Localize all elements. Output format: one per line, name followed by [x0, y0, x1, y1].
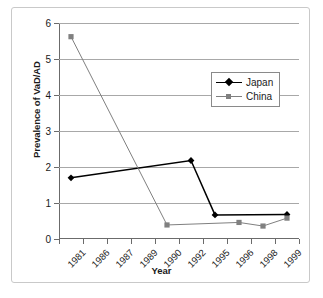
y-tick-label: 0: [45, 234, 51, 245]
legend-label: China: [246, 91, 272, 102]
x-tick-mark: [299, 239, 300, 244]
x-tick-mark: [227, 239, 228, 244]
legend-swatch-icon: [216, 76, 242, 88]
data-point-marker: [68, 34, 73, 39]
y-axis-title: Prevalence of VaD/AD: [31, 40, 42, 180]
chart-figure: Prevalence of VaD/AD Year 0123456 198119…: [11, 7, 310, 283]
x-tick-mark: [275, 239, 276, 244]
plot-area: 0123456 19811986198719891990199219951996…: [59, 23, 299, 239]
x-tick-mark: [83, 239, 84, 244]
y-tick-label: 3: [45, 126, 51, 137]
data-point-marker: [236, 220, 241, 225]
legend-label: Japan: [246, 77, 273, 88]
y-tick-label: 4: [45, 90, 51, 101]
data-point-marker: [68, 174, 75, 181]
series-line: [71, 161, 287, 215]
x-tick-mark: [59, 239, 60, 244]
data-point-marker: [164, 222, 169, 227]
data-point-marker: [284, 216, 289, 221]
x-tick-mark: [179, 239, 180, 244]
x-tick-mark: [251, 239, 252, 244]
data-point-marker: [212, 211, 219, 218]
data-point-marker: [260, 223, 265, 228]
series-line: [71, 37, 287, 226]
x-tick-mark: [203, 239, 204, 244]
y-tick-label: 5: [45, 54, 51, 65]
series-china: [68, 34, 289, 229]
chart-legend: JapanChina: [211, 72, 280, 107]
x-tick-mark: [155, 239, 156, 244]
data-point-marker: [188, 157, 195, 164]
legend-entry-japan: Japan: [216, 75, 273, 89]
x-tick-mark: [107, 239, 108, 244]
legend-entry-china: China: [216, 89, 273, 103]
x-tick-mark: [131, 239, 132, 244]
y-tick-label: 1: [45, 198, 51, 209]
series-japan: [68, 157, 291, 218]
series-layer: [59, 23, 299, 239]
legend-swatch-icon: [216, 90, 242, 102]
y-tick-label: 2: [45, 162, 51, 173]
y-tick-label: 6: [45, 18, 51, 29]
